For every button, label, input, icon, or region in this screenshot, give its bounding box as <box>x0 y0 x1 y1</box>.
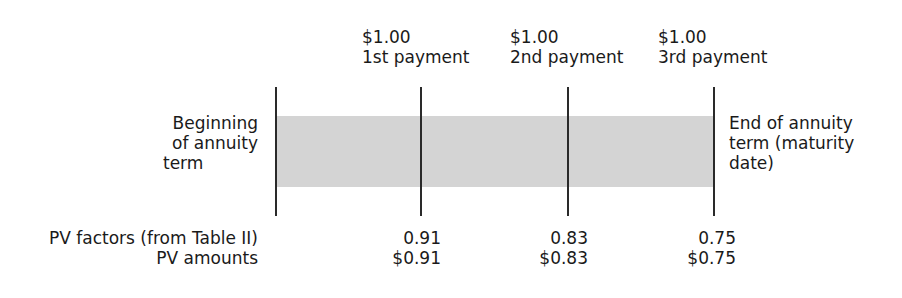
payment-1-amount: $1.00 <box>362 28 411 47</box>
payment-1-line <box>420 87 422 216</box>
payment-2-label: 2nd payment <box>510 48 624 67</box>
payment-3-line <box>713 87 715 216</box>
end-label-line-1: End of annuity <box>729 114 853 133</box>
start-label-line-3: term <box>163 154 203 173</box>
start-label-line-1: Beginning <box>173 114 258 133</box>
pv-factors-label: PV factors (from Table II) <box>49 229 258 248</box>
pv-amounts-label: PV amounts <box>156 249 258 268</box>
pv-factor-2: 0.83 <box>550 229 588 248</box>
pv-amount-3: $0.75 <box>687 249 736 268</box>
end-label-line-2: term (maturity <box>729 134 854 153</box>
payment-3-label: 3rd payment <box>658 48 767 67</box>
payment-2-line <box>567 87 569 216</box>
start-label-line-2: of annuity <box>172 134 258 153</box>
annuity-term-band <box>276 116 714 187</box>
payment-3-amount: $1.00 <box>658 28 707 47</box>
pv-factor-1: 0.91 <box>403 229 441 248</box>
payment-1-label: 1st payment <box>362 48 469 67</box>
pv-factor-3: 0.75 <box>698 229 736 248</box>
payment-2-amount: $1.00 <box>510 28 559 47</box>
term-start-line <box>275 87 277 216</box>
pv-amount-1: $0.91 <box>392 249 441 268</box>
end-label-line-3: date) <box>729 154 774 173</box>
pv-amount-2: $0.83 <box>539 249 588 268</box>
